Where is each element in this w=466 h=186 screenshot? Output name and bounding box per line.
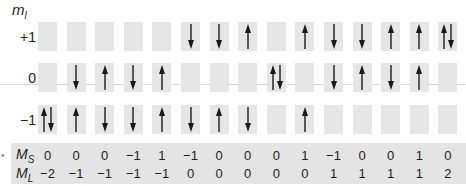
- spin-down-arrow-icon: [331, 65, 337, 90]
- orbital-box: [152, 105, 171, 134]
- orbital-box: [324, 63, 343, 92]
- orbital-box: [295, 22, 314, 51]
- ml-value: −1: [119, 166, 147, 181]
- ml-value: 0: [205, 166, 233, 181]
- orbital-box: [238, 63, 257, 92]
- orbital-box: [67, 22, 86, 51]
- orbital-box: [67, 105, 86, 134]
- orbital-box: [353, 22, 372, 51]
- spin-down-arrow-icon: [102, 107, 108, 132]
- spin-up-arrow-icon: [302, 24, 308, 49]
- ml-value: −1: [62, 166, 90, 181]
- spin-down-arrow-icon: [359, 24, 365, 49]
- spin-down-arrow-icon: [277, 65, 283, 90]
- orbital-box: [181, 22, 200, 51]
- ms-value: 0: [91, 148, 119, 163]
- ms-value: 0: [205, 148, 233, 163]
- orbital-box: [238, 105, 257, 134]
- ms-value: 0: [62, 148, 90, 163]
- orbital-box: [38, 22, 57, 51]
- row-label-zero: 0: [6, 70, 36, 86]
- spin-down-arrow-icon: [188, 24, 194, 49]
- orbital-box: [353, 63, 372, 92]
- orbital-box: [152, 22, 171, 51]
- orbital-box: [210, 22, 229, 51]
- spin-up-arrow-icon: [73, 107, 79, 132]
- spin-up-arrow-icon: [302, 107, 308, 132]
- spin-down-arrow-icon: [130, 65, 136, 90]
- spin-up-arrow-icon: [388, 24, 394, 49]
- orbital-box: [67, 63, 86, 92]
- ml-value: −1: [148, 166, 176, 181]
- ml-label: ML: [16, 165, 33, 184]
- spin-up-arrow-icon: [441, 24, 447, 49]
- orbital-box: [152, 63, 171, 92]
- orbital-box: [438, 105, 457, 134]
- spin-up-arrow-icon: [102, 65, 108, 90]
- spin-up-arrow-icon: [359, 65, 365, 90]
- spin-down-arrow-icon: [245, 107, 251, 132]
- orbital-box: [438, 22, 457, 51]
- ms-value: 0: [234, 148, 262, 163]
- ml-value: 1: [377, 166, 405, 181]
- ml-value: 1: [320, 166, 348, 181]
- ms-label-text: M: [16, 146, 28, 162]
- ms-value: 1: [405, 148, 433, 163]
- orbital-box: [124, 63, 143, 92]
- axis-title-subscript: l: [25, 10, 27, 21]
- orbital-box: [95, 63, 114, 92]
- spin-up-arrow-icon: [270, 65, 276, 90]
- spin-up-arrow-icon: [245, 24, 251, 49]
- orbital-box: [295, 63, 314, 92]
- orbital-box: [324, 22, 343, 51]
- ml-value: 1: [348, 166, 376, 181]
- spin-up-arrow-icon: [159, 65, 165, 90]
- ml-value: −1: [91, 166, 119, 181]
- ml-value: 2: [434, 166, 462, 181]
- ms-value: 1: [291, 148, 319, 163]
- row-label-plus1: +1: [6, 29, 36, 45]
- ms-value: 1: [148, 148, 176, 163]
- orbital-box: [267, 63, 286, 92]
- axis-title-text: m: [12, 1, 25, 18]
- orbital-box: [95, 105, 114, 134]
- spin-down-arrow-icon: [73, 65, 79, 90]
- ml-value: 0: [177, 166, 205, 181]
- ms-label: MS: [16, 146, 34, 165]
- ms-value: 0: [262, 148, 290, 163]
- orbital-box: [181, 105, 200, 134]
- spin-down-arrow-icon: [188, 107, 194, 132]
- orbital-box: [267, 22, 286, 51]
- orbital-box: [238, 22, 257, 51]
- spin-up-arrow-icon: [159, 107, 165, 132]
- orbital-box: [95, 22, 114, 51]
- ml-axis-title: ml: [12, 1, 27, 21]
- spin-down-arrow-icon: [216, 24, 222, 49]
- orbital-box: [381, 105, 400, 134]
- ms-value: −1: [177, 148, 205, 163]
- orbital-box: [210, 63, 229, 92]
- ml-value: 1: [405, 166, 433, 181]
- ms-value: 0: [34, 148, 62, 163]
- orbital-box: [353, 105, 372, 134]
- row-label-minus1: −1: [6, 112, 36, 128]
- orbital-box: [210, 105, 229, 134]
- spin-up-arrow-icon: [216, 107, 222, 132]
- orbital-box: [124, 105, 143, 134]
- orbital-box: [124, 22, 143, 51]
- band-marker: •: [1, 150, 5, 161]
- spin-down-arrow-icon: [448, 24, 454, 49]
- spin-down-arrow-icon: [48, 107, 54, 132]
- ml-value: 0: [291, 166, 319, 181]
- spin-up-arrow-icon: [416, 24, 422, 49]
- orbital-box: [381, 63, 400, 92]
- orbital-box: [38, 63, 57, 92]
- orbital-box: [38, 105, 57, 134]
- ms-value: −1: [119, 148, 147, 163]
- ms-value: 0: [348, 148, 376, 163]
- orbital-box: [324, 105, 343, 134]
- orbital-box: [410, 105, 429, 134]
- spin-up-arrow-icon: [41, 107, 47, 132]
- ml-label-text: M: [16, 165, 28, 181]
- orbital-box: [181, 63, 200, 92]
